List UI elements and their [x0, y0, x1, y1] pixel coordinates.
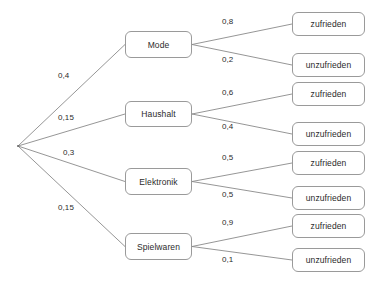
node-haushalt-zufrieden[interactable]: zufrieden: [292, 82, 365, 106]
edge-label-mode-zufrieden: 0,8: [222, 17, 233, 26]
edge-root-to-mode: [18, 45, 125, 147]
edge-spielwaren-to-spielwaren-unzufrieden: [192, 247, 292, 261]
edge-label-elektronik-zufrieden: 0,5: [222, 153, 233, 162]
node-elektronik-zufrieden[interactable]: zufrieden: [292, 151, 365, 175]
root-node: [17, 145, 19, 147]
edge-mode-to-mode-unzufrieden: [192, 45, 292, 66]
edge-label-root-elektronik: 0,3: [63, 148, 74, 157]
node-elektronik[interactable]: Elektronik: [125, 168, 192, 195]
node-elektronik-unzufrieden[interactable]: unzufrieden: [292, 186, 365, 210]
node-mode-unzufrieden-label: unzufrieden: [306, 60, 352, 70]
edge-label-mode-unzufrieden: 0,2: [222, 55, 233, 64]
node-mode-zufrieden-label: zufrieden: [311, 19, 347, 29]
node-haushalt[interactable]: Haushalt: [125, 101, 192, 127]
node-elektronik-zufrieden-label: zufrieden: [311, 158, 347, 168]
edge-elektronik-to-elektronik-zufrieden: [192, 163, 292, 182]
edge-label-root-haushalt: 0,15: [58, 113, 74, 122]
node-haushalt-unzufrieden-label: unzufrieden: [306, 129, 352, 139]
node-mode[interactable]: Mode: [125, 31, 192, 58]
edge-mode-to-mode-zufrieden: [192, 24, 292, 45]
edge-label-haushalt-zufrieden: 0,6: [222, 88, 233, 97]
edge-haushalt-to-haushalt-zufrieden: [192, 94, 292, 114]
edge-root-to-spielwaren: [18, 146, 125, 247]
node-spielwaren[interactable]: Spielwaren: [125, 233, 192, 260]
edge-label-haushalt-unzufrieden: 0,4: [222, 122, 233, 131]
node-mode-unzufrieden[interactable]: unzufrieden: [292, 53, 365, 77]
edge-label-elektronik-unzufrieden: 0,5: [222, 190, 233, 199]
node-spielwaren-unzufrieden-label: unzufrieden: [306, 255, 352, 265]
edge-label-root-spielwaren: 0,15: [58, 203, 74, 212]
node-mode-zufrieden[interactable]: zufrieden: [292, 12, 365, 36]
node-spielwaren-zufrieden-label: zufrieden: [311, 221, 347, 231]
node-haushalt-unzufrieden[interactable]: unzufrieden: [292, 122, 365, 146]
node-elektronik-unzufrieden-label: unzufrieden: [306, 193, 352, 203]
edge-label-spielwaren-zufrieden: 0,9: [222, 218, 233, 227]
edge-haushalt-to-haushalt-unzufrieden: [192, 114, 292, 134]
edge-elektronik-to-elektronik-unzufrieden: [192, 182, 292, 199]
probability-tree-diagram: ModeHaushaltElektronikSpielwarenzufriede…: [0, 0, 372, 288]
node-spielwaren-zufrieden[interactable]: zufrieden: [292, 214, 365, 238]
node-haushalt-label: Haushalt: [141, 109, 175, 119]
node-spielwaren-label: Spielwaren: [137, 242, 180, 252]
node-spielwaren-unzufrieden[interactable]: unzufrieden: [292, 248, 365, 272]
edge-spielwaren-to-spielwaren-zufrieden: [192, 226, 292, 247]
node-elektronik-label: Elektronik: [139, 177, 177, 187]
edge-label-root-mode: 0,4: [58, 71, 69, 80]
edge-label-spielwaren-unzufrieden: 0,1: [222, 255, 233, 264]
node-haushalt-zufrieden-label: zufrieden: [311, 89, 347, 99]
node-mode-label: Mode: [148, 40, 170, 50]
